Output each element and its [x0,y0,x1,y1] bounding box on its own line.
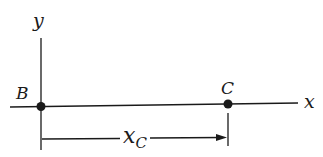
point-c-label: C [221,78,234,98]
point-c-dot [224,100,233,109]
y-axis-label: y [32,9,44,31]
dimension-label-subscript: C [135,134,147,152]
point-b-label: B [15,83,29,103]
dimension-line-right [150,138,222,139]
x-axis-label: x [304,90,315,112]
dimension-line-left [42,139,120,140]
point-b-dot [37,102,46,111]
dimension-arrowhead-icon [216,134,227,141]
dimension-label-main: x [123,123,136,148]
coordinate-diagram: y x B C xC [0,0,323,157]
dimension-label: xC [123,123,147,152]
x-axis-line [10,103,298,107]
